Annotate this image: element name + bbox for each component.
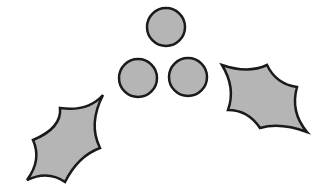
left-leaf — [27, 95, 103, 182]
berry-top — [147, 8, 185, 46]
right-leaf — [222, 65, 307, 132]
berries — [119, 8, 207, 97]
berry-bottom-right — [169, 58, 207, 96]
berry-bottom-left — [119, 59, 157, 97]
holly-illustration — [0, 0, 326, 196]
